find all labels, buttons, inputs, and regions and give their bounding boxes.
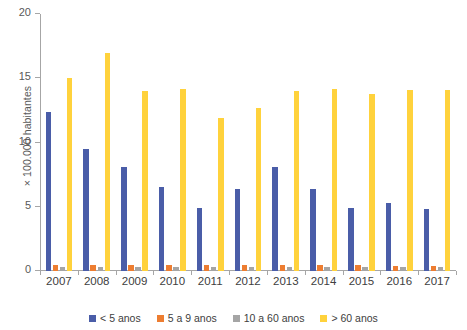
bar-group: [121, 14, 148, 271]
legend-swatch-icon: [157, 315, 164, 322]
bar-group: [272, 14, 299, 271]
bar[interactable]: [67, 78, 73, 271]
bar[interactable]: [211, 267, 217, 271]
bar[interactable]: [369, 94, 375, 271]
bar-group: [386, 14, 413, 271]
bar-group: [424, 14, 451, 271]
x-axis-category-label: 2015: [343, 275, 381, 287]
bar-group: [310, 14, 337, 271]
x-axis-category-label: 2007: [40, 275, 78, 287]
bar[interactable]: [445, 90, 451, 271]
bar[interactable]: [310, 189, 316, 271]
legend-label: 5 a 9 anos: [168, 312, 217, 324]
bar[interactable]: [180, 89, 186, 271]
bar[interactable]: [98, 267, 104, 271]
y-axis-tick: 20: [35, 13, 40, 14]
y-axis-tick: 5: [35, 206, 40, 207]
chart-legend: < 5 anos5 a 9 anos10 a 60 anos> 60 anos: [0, 312, 467, 324]
bar[interactable]: [235, 189, 241, 271]
x-axis-category-label: 2012: [229, 275, 267, 287]
bar[interactable]: [60, 267, 66, 271]
bar[interactable]: [287, 267, 293, 271]
bar[interactable]: [46, 112, 52, 271]
bar-group: [348, 14, 375, 271]
x-axis-category-label: 2014: [305, 275, 343, 287]
bar-group: [159, 14, 186, 271]
bar[interactable]: [121, 167, 127, 271]
y-axis-tick-label: 10: [19, 135, 31, 147]
legend-swatch-icon: [89, 315, 96, 322]
bar[interactable]: [242, 265, 248, 271]
bar-group: [46, 14, 73, 271]
y-axis-tick-label: 0: [25, 263, 31, 275]
bar[interactable]: [105, 53, 111, 271]
y-axis-tick-label: 20: [19, 6, 31, 18]
bar[interactable]: [204, 265, 210, 271]
legend-label: > 60 anos: [331, 312, 377, 324]
y-axis-line: [40, 14, 41, 271]
legend-item[interactable]: < 5 anos: [89, 312, 141, 324]
legend-item[interactable]: 5 a 9 anos: [157, 312, 217, 324]
bar[interactable]: [173, 267, 179, 271]
bar[interactable]: [438, 267, 444, 271]
x-axis-tick: [456, 271, 457, 275]
legend-swatch-icon: [320, 315, 327, 322]
bar[interactable]: [83, 149, 89, 271]
x-axis-category-label: 2010: [153, 275, 191, 287]
bar[interactable]: [294, 91, 300, 271]
bar[interactable]: [393, 266, 399, 271]
bar[interactable]: [166, 265, 172, 271]
bar[interactable]: [324, 267, 330, 271]
legend-item[interactable]: 10 a 60 anos: [233, 312, 305, 324]
bar[interactable]: [249, 267, 255, 271]
bar[interactable]: [197, 208, 203, 271]
y-axis-tick: 15: [35, 77, 40, 78]
legend-label: < 5 anos: [100, 312, 141, 324]
bar[interactable]: [362, 267, 368, 271]
bar[interactable]: [53, 265, 59, 271]
bar[interactable]: [386, 203, 392, 271]
legend-label: 10 a 60 anos: [244, 312, 305, 324]
plot-area: 05101520 2007200820092010201120122013201…: [40, 14, 456, 271]
bar[interactable]: [424, 209, 430, 271]
bar[interactable]: [431, 266, 437, 271]
bar[interactable]: [159, 187, 165, 271]
bar[interactable]: [90, 265, 96, 271]
bar-chart-figure: × 100.000 habitantes 05101520 2007200820…: [0, 0, 467, 330]
bar[interactable]: [135, 267, 141, 271]
x-axis-category-label: 2016: [380, 275, 418, 287]
bar[interactable]: [317, 265, 323, 271]
bar-group: [83, 14, 110, 271]
y-axis-tick-label: 5: [25, 199, 31, 211]
x-axis-category-label: 2013: [267, 275, 305, 287]
bar[interactable]: [128, 265, 134, 271]
bar[interactable]: [280, 265, 286, 271]
bar-group: [197, 14, 224, 271]
bar[interactable]: [407, 90, 413, 271]
bar[interactable]: [218, 118, 224, 271]
bar[interactable]: [256, 108, 262, 271]
legend-swatch-icon: [233, 315, 240, 322]
x-axis-category-label: 2009: [116, 275, 154, 287]
bar[interactable]: [400, 267, 406, 271]
bar-group: [235, 14, 262, 271]
bar[interactable]: [332, 89, 338, 271]
bar[interactable]: [355, 265, 361, 271]
legend-item[interactable]: > 60 anos: [320, 312, 377, 324]
x-axis-category-label: 2008: [78, 275, 116, 287]
bar[interactable]: [272, 167, 278, 271]
y-axis-tick: 10: [35, 142, 40, 143]
bar[interactable]: [348, 208, 354, 271]
y-axis-tick-label: 15: [19, 70, 31, 82]
x-axis-category-label: 2011: [191, 275, 229, 287]
x-axis-category-label: 2017: [418, 275, 456, 287]
bar[interactable]: [142, 91, 148, 271]
